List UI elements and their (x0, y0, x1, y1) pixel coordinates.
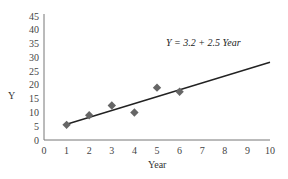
x-tick-label: 1 (64, 145, 69, 156)
data-point-diamond (130, 108, 138, 116)
y-axis-label: Y (8, 90, 15, 101)
x-tick-label: 6 (177, 145, 182, 156)
data-points (62, 83, 183, 129)
x-tick-label: 10 (265, 145, 275, 156)
data-point-diamond (62, 121, 70, 129)
y-tick-label: 20 (29, 79, 39, 90)
y-tick-label: 5 (34, 121, 39, 132)
x-tick-label: 8 (222, 145, 227, 156)
x-tick-label: 5 (155, 145, 160, 156)
y-tick-label: 0 (34, 135, 39, 146)
y-tick-label: 45 (29, 11, 39, 22)
trendline (67, 62, 270, 124)
y-tick-label: 25 (29, 66, 39, 77)
y-axis-ticks: 051015202530354045 (29, 11, 39, 146)
y-tick-label: 30 (29, 52, 39, 63)
y-tick-label: 35 (29, 38, 39, 49)
x-tick-label: 4 (132, 145, 137, 156)
x-tick-label: 2 (87, 145, 92, 156)
x-tick-label: 0 (42, 145, 47, 156)
x-axis-ticks: 012345678910 (42, 145, 276, 156)
y-tick-label: 15 (29, 93, 39, 104)
x-tick-label: 7 (200, 145, 205, 156)
data-point-diamond (108, 101, 116, 109)
x-tick-label: 9 (245, 145, 250, 156)
scatter-chart: 051015202530354045 012345678910 Y Year Y… (0, 0, 288, 179)
data-point-diamond (153, 83, 161, 91)
y-tick-label: 10 (29, 107, 39, 118)
x-axis-label: Year (148, 159, 167, 170)
x-tick-label: 3 (109, 145, 114, 156)
y-tick-label: 40 (29, 24, 39, 35)
regression-equation: Y = 3.2 + 2.5 Year (166, 37, 241, 48)
